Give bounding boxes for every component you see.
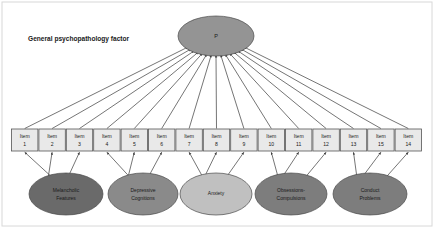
figure-caption: General psychopathology factor <box>28 35 130 43</box>
item-label: Item <box>349 133 359 139</box>
p-factor-label: P <box>214 33 218 39</box>
specific-factor-label-line1: Depressive <box>130 187 155 193</box>
specific-factor-label-line1: Obsessions- <box>277 187 305 193</box>
item-number: 4 <box>105 141 108 147</box>
specific-factor-label-line1: Conduct <box>361 187 380 193</box>
item-label: Item <box>294 133 304 139</box>
item-box[interactable]: Item12 <box>313 129 339 151</box>
item-box[interactable]: Item1 <box>12 129 38 151</box>
item-number: 14 <box>405 141 411 147</box>
item-box[interactable]: Item15 <box>368 129 394 151</box>
item-number: 3 <box>78 141 81 147</box>
item-box[interactable]: Item13 <box>340 129 366 151</box>
specific-factor[interactable]: Anxiety <box>180 173 252 215</box>
item-number: 6 <box>160 141 163 147</box>
item-label: Item <box>403 133 413 139</box>
item-number: 11 <box>296 141 301 147</box>
item-label: Item <box>321 133 331 139</box>
item-label: Item <box>212 133 222 139</box>
item-label: Item <box>266 133 276 139</box>
general-loading-path <box>244 47 408 128</box>
indicator-boxes: Item1Item2Item3Item4Item5Item6Item7Item8… <box>12 129 422 151</box>
item-label: Item <box>102 133 112 139</box>
item-label: Item <box>376 133 386 139</box>
item-number: 1 <box>23 141 26 147</box>
item-box[interactable]: Item2 <box>39 129 65 151</box>
specific-factor[interactable]: DepressiveCognitions <box>108 173 178 215</box>
item-box[interactable]: Item6 <box>149 129 175 151</box>
item-box[interactable]: Item7 <box>176 129 202 151</box>
item-number: 12 <box>323 141 329 147</box>
item-box[interactable]: Item3 <box>66 129 92 151</box>
general-loading-path <box>216 55 217 129</box>
item-number: 8 <box>215 141 218 147</box>
item-number: 5 <box>133 141 136 147</box>
item-number: 2 <box>51 141 54 147</box>
item-box[interactable]: Item10 <box>258 129 284 151</box>
general-loading-path <box>238 51 354 129</box>
item-number: 7 <box>188 141 191 147</box>
item-box[interactable]: Item8 <box>203 129 229 151</box>
item-label: Item <box>75 133 85 139</box>
specific-factor-label-line2: Cognitions <box>131 195 155 201</box>
figure-canvas: Item1Item2Item3Item4Item5Item6Item7Item8… <box>0 0 434 228</box>
specific-factor[interactable]: Obsessions-Compulsions <box>255 173 327 215</box>
item-box[interactable]: Item4 <box>94 129 120 151</box>
general-loading-path <box>107 52 198 128</box>
general-loading-path <box>189 55 211 129</box>
specific-loading-path <box>107 152 131 178</box>
specific-factor[interactable]: MelancholicFeatures <box>29 173 103 215</box>
specific-factor-label-line1: Anxiety <box>208 190 225 196</box>
specific-factor-label-line2: Problems <box>359 195 381 201</box>
specific-factor[interactable]: ConductProblems <box>333 173 407 215</box>
item-label: Item <box>239 133 249 139</box>
item-label: Item <box>157 133 167 139</box>
item-label: Item <box>20 133 30 139</box>
general-factor-paths <box>25 47 409 128</box>
specific-factor-label-line2: Compulsions <box>277 195 306 201</box>
item-number: 9 <box>242 141 245 147</box>
item-label: Item <box>184 133 194 139</box>
specific-factor-label-line2: Features <box>56 195 76 201</box>
specific-loading-path <box>189 152 203 178</box>
general-loading-path <box>25 47 188 128</box>
general-factor-ellipse: P <box>178 16 254 56</box>
item-label: Item <box>129 133 139 139</box>
item-box[interactable]: Item9 <box>231 129 257 151</box>
item-box[interactable]: Item14 <box>395 129 421 151</box>
item-number: 15 <box>378 141 384 147</box>
item-box[interactable]: Item5 <box>121 129 147 151</box>
path-diagram: Item1Item2Item3Item4Item5Item6Item7Item8… <box>0 0 434 228</box>
item-label: Item <box>47 133 57 139</box>
general-loading-path <box>80 51 195 129</box>
specific-factor-ellipses: MelancholicFeaturesDepressiveCognitionsA… <box>29 173 407 215</box>
item-number: 10 <box>268 141 274 147</box>
item-number: 13 <box>351 141 357 147</box>
item-box[interactable]: Item11 <box>286 129 312 151</box>
specific-factor-label-line1: Melancholic <box>53 187 80 193</box>
